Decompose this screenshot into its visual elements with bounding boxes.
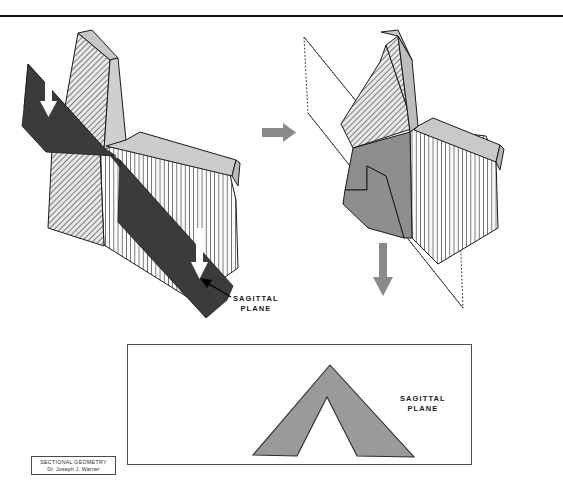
title-block-line-2: Dr. Joseph J. Warner	[47, 466, 100, 472]
process-arrow-down	[373, 243, 393, 296]
title-block-line-1: SECTIONAL GEOMETRY	[40, 459, 107, 465]
sagittal-plane-callout-label: SAGITTAL PLANE	[233, 294, 279, 314]
figure-right-solid-with-dotted-plane	[304, 30, 504, 308]
diagram-page: SAGITTAL PLANE SAGITTAL PLANE SECTIONAL …	[0, 0, 563, 500]
sagittal-plane-panel-label: SAGITTAL PLANE	[400, 394, 446, 414]
title-block: SECTIONAL GEOMETRY Dr. Joseph J. Warner	[31, 456, 116, 475]
left-diagonal-hatched-wing-lower	[48, 148, 104, 246]
figure-left-cut-solid-with-sagittal-plane	[22, 30, 240, 318]
process-arrow-right	[262, 123, 296, 142]
